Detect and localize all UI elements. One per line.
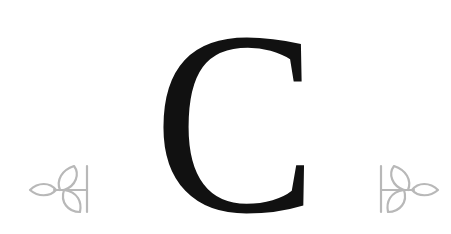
leaf-sprig-icon <box>374 160 444 220</box>
leaf-sprig-icon-right <box>374 160 444 220</box>
monogram-logo: C <box>0 0 451 234</box>
